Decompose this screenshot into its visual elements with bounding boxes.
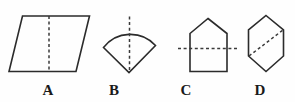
shape-group-c — [178, 19, 238, 72]
shapes-figure: A B C D — [0, 0, 295, 102]
shape-label-b: B — [104, 83, 124, 98]
pentagon-outline-c — [190, 19, 227, 72]
shape-label-a: A — [38, 83, 58, 98]
shape-label-c: C — [176, 83, 196, 98]
dashed-line-d — [249, 30, 283, 56]
shape-group-b — [104, 17, 156, 73]
hexagon-outline-d — [249, 16, 284, 72]
shape-label-d: D — [250, 83, 270, 98]
shape-group-a — [9, 16, 90, 72]
shape-group-d — [249, 16, 284, 72]
